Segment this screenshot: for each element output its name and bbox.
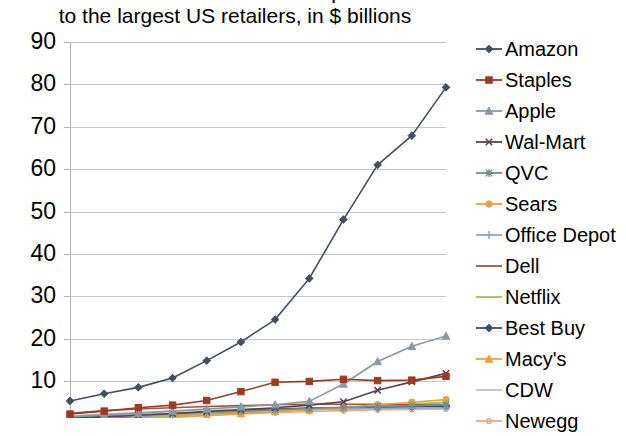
legend-label: Newegg	[505, 410, 578, 432]
legend-item-dell[interactable]: Dell	[474, 250, 626, 281]
legend-label: CDW	[505, 379, 553, 401]
legend-marker-icon	[474, 410, 504, 432]
data-point-marker	[66, 397, 74, 405]
legend-marker-icon	[474, 69, 504, 91]
legend-marker-icon	[474, 193, 504, 215]
legend-item-macy-s[interactable]: Macy's	[474, 343, 626, 374]
legend-item-sears[interactable]: Sears	[474, 188, 626, 219]
legend-label: Sears	[505, 193, 557, 215]
legend-marker-icon	[474, 38, 504, 60]
data-point-marker	[408, 402, 416, 410]
legend-item-amazon[interactable]: Amazon	[474, 33, 626, 64]
data-point-marker	[203, 357, 211, 365]
data-point-marker	[485, 45, 493, 53]
data-point-marker	[306, 378, 312, 384]
legend-item-best-buy[interactable]: Best Buy	[474, 312, 626, 343]
legend-label: QVC	[505, 162, 548, 184]
data-point-marker	[169, 374, 177, 382]
data-point-marker	[485, 324, 493, 332]
legend-marker-icon	[474, 286, 504, 308]
legend-marker-icon	[474, 162, 504, 184]
data-point-marker	[238, 388, 244, 394]
data-point-marker	[374, 402, 382, 410]
legend-marker-icon	[474, 317, 504, 339]
legend-label: Office Depot	[505, 224, 616, 246]
legend-item-office-depot[interactable]: Office Depot	[474, 219, 626, 250]
data-point-marker	[135, 404, 141, 410]
legend-label: Netflix	[505, 286, 561, 308]
legend-marker-icon	[474, 224, 504, 246]
data-point-marker	[374, 377, 380, 383]
legend-marker-icon	[474, 131, 504, 153]
data-point-marker	[101, 408, 107, 414]
data-point-marker	[68, 419, 73, 424]
legend-label: Wal-Mart	[505, 131, 585, 153]
data-point-marker	[102, 418, 107, 423]
legend-item-apple[interactable]: Apple	[474, 95, 626, 126]
data-point-marker	[485, 169, 493, 177]
legend-label: Macy's	[505, 348, 567, 370]
legend-label: Dell	[505, 255, 539, 277]
data-point-marker	[67, 411, 73, 417]
data-point-marker	[486, 76, 492, 82]
data-point-marker	[486, 200, 492, 206]
data-point-marker	[442, 332, 450, 339]
legend-item-newegg[interactable]: Newegg	[474, 405, 626, 436]
legend-label: Best Buy	[505, 317, 585, 339]
data-point-marker	[135, 384, 143, 392]
series-group	[66, 84, 450, 425]
data-point-marker	[409, 377, 415, 383]
legend-marker-icon	[474, 379, 504, 401]
series-amazon	[66, 84, 450, 405]
data-point-marker	[340, 376, 346, 382]
chart-legend: AmazonStaplesAppleWal-MartQVCSearsOffice…	[474, 33, 626, 436]
legend-marker-icon	[474, 255, 504, 277]
data-point-marker	[272, 379, 278, 385]
data-point-marker	[204, 397, 210, 403]
legend-item-wal-mart[interactable]: Wal-Mart	[474, 126, 626, 157]
data-point-marker	[485, 231, 493, 239]
data-point-marker	[442, 401, 450, 409]
data-point-marker	[443, 373, 449, 379]
legend-marker-icon	[474, 348, 504, 370]
legend-item-netflix[interactable]: Netflix	[474, 281, 626, 312]
legend-item-staples[interactable]: Staples	[474, 64, 626, 95]
data-point-marker	[340, 216, 348, 224]
legend-item-qvc[interactable]: QVC	[474, 157, 626, 188]
data-point-marker	[169, 402, 175, 408]
legend-marker-icon	[474, 100, 504, 122]
legend-item-cdw[interactable]: CDW	[474, 374, 626, 405]
legend-label: Amazon	[505, 38, 578, 60]
data-point-marker	[66, 417, 74, 424]
legend-label: Staples	[505, 69, 572, 91]
data-point-marker	[100, 390, 108, 398]
legend-label: Apple	[505, 100, 556, 122]
